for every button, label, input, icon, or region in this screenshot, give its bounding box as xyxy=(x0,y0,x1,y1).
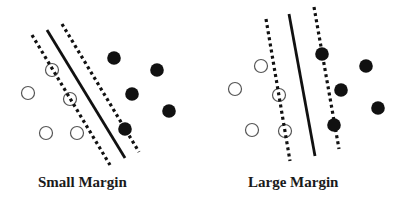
open-circle-point xyxy=(22,87,35,100)
filled-circle-point xyxy=(327,118,341,132)
filled-circle-point xyxy=(150,63,164,77)
margin-boundary-line xyxy=(32,35,110,165)
large-margin-label: Large Margin xyxy=(248,174,338,191)
svm-margin-diagram xyxy=(0,0,398,202)
decision-hyperplane-line xyxy=(47,30,125,158)
filled-circle-point xyxy=(315,47,329,61)
filled-circle-point xyxy=(334,83,348,97)
open-circle-point xyxy=(229,83,242,96)
filled-circle-point xyxy=(118,122,132,136)
large-margin-panel xyxy=(229,7,385,161)
filled-circle-point xyxy=(107,51,121,65)
filled-circle-point xyxy=(125,87,139,101)
small-margin-panel xyxy=(22,24,176,165)
decision-hyperplane-line xyxy=(289,14,315,156)
small-margin-label: Small Margin xyxy=(38,174,127,191)
open-circle-point xyxy=(40,127,53,140)
open-circle-point xyxy=(246,124,259,137)
open-circle-point xyxy=(71,127,84,140)
support-vector-open-circle xyxy=(46,64,59,77)
filled-circle-point xyxy=(359,59,373,73)
filled-circle-point xyxy=(371,101,385,115)
filled-circle-point xyxy=(162,104,176,118)
open-circle-point xyxy=(255,60,268,73)
